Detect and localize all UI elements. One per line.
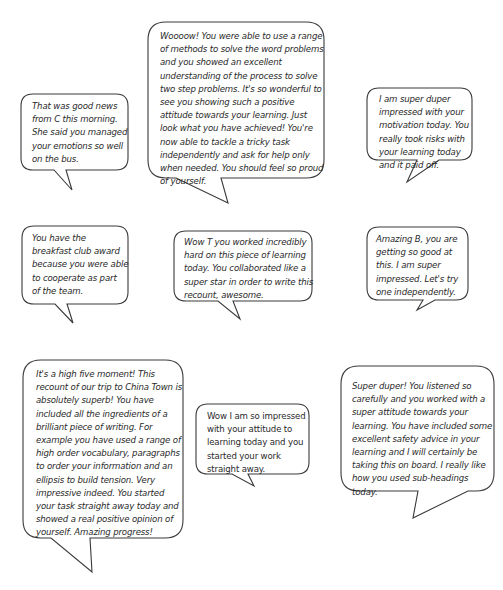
bubble-comment-text: Woooow! You were able to use a range of …: [160, 30, 326, 188]
bubble-comment-text: Super duper! You listened so carefully a…: [352, 380, 496, 499]
bubble-comment-text: Wow T you worked incredibly hard on this…: [184, 236, 314, 302]
speech-bubble-bottom-right: Super duper! You listened so carefully a…: [341, 366, 494, 519]
speech-bubble-top-right: I am super duper impressed with your mot…: [367, 88, 472, 184]
speech-bubble-bottom-center: Wow I am so impressed with your attitude…: [196, 404, 309, 488]
bubble-comment-text: Wow I am so impressed with your attitude…: [207, 410, 311, 476]
speech-bubble-bottom-left: It's a high five moment! This recount of…: [23, 360, 183, 573]
bubble-comment-text: It's a high five moment! This recount of…: [36, 368, 186, 540]
bubble-comment-text: Amazing B, you are getting so good at th…: [376, 233, 471, 299]
speech-bubble-middle-left: You have the breakfast club award becaus…: [22, 226, 128, 324]
bubble-comment-text: You have the breakfast club award becaus…: [32, 232, 130, 298]
speech-bubble-middle-right: Amazing B, you are getting so good at th…: [367, 227, 468, 312]
speech-bubble-middle-center: Wow T you worked incredibly hard on this…: [174, 231, 312, 321]
speech-bubble-top-left: That was good news from C this morning. …: [21, 94, 128, 191]
speech-bubble-top-center: Woooow! You were able to use a range of …: [148, 22, 324, 204]
bubble-comment-text: That was good news from C this morning. …: [32, 100, 132, 166]
bubble-comment-text: I am super duper impressed with your mot…: [379, 93, 475, 172]
